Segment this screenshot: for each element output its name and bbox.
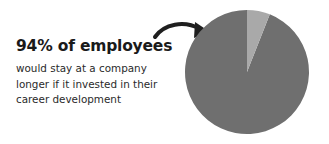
description-line-2: longer if it invested in their	[16, 77, 186, 93]
description-line-1: would stay at a company	[16, 61, 186, 77]
description-line-3: career development	[16, 92, 186, 108]
headline-stat: 94% of employees	[16, 37, 172, 55]
pie-chart	[182, 7, 312, 137]
stat-description: would stay at a company longer if it inv…	[16, 61, 186, 108]
